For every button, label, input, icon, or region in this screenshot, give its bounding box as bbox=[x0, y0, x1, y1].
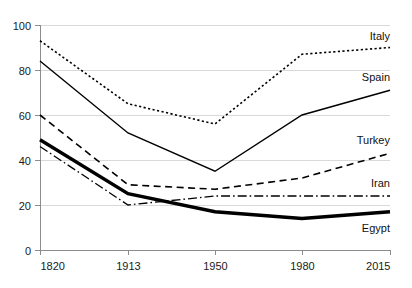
x-tick-label-1913: 1913 bbox=[116, 260, 140, 272]
x-tick-label-2015: 2015 bbox=[366, 260, 390, 272]
line-chart: 020406080100 18201913195019802015 ItalyS… bbox=[0, 0, 412, 288]
y-tick-label-40: 40 bbox=[19, 155, 31, 167]
chart-background bbox=[0, 0, 412, 288]
chart-canvas: 020406080100 18201913195019802015 ItalyS… bbox=[0, 0, 412, 288]
y-tick-label-80: 80 bbox=[19, 65, 31, 77]
y-tick-label-60: 60 bbox=[19, 110, 31, 122]
x-tick-label-1980: 1980 bbox=[290, 260, 314, 272]
y-tick-label-100: 100 bbox=[13, 20, 31, 32]
series-label-spain: Spain bbox=[362, 71, 390, 83]
x-tick-label-1820: 1820 bbox=[41, 260, 65, 272]
series-label-iran: Iran bbox=[371, 177, 390, 189]
y-tick-label-0: 0 bbox=[25, 245, 31, 257]
x-tick-label-1950: 1950 bbox=[203, 260, 227, 272]
series-label-egypt: Egypt bbox=[362, 222, 390, 234]
series-label-turkey: Turkey bbox=[357, 134, 391, 146]
y-tick-label-20: 20 bbox=[19, 200, 31, 212]
series-label-italy: Italy bbox=[370, 30, 391, 42]
